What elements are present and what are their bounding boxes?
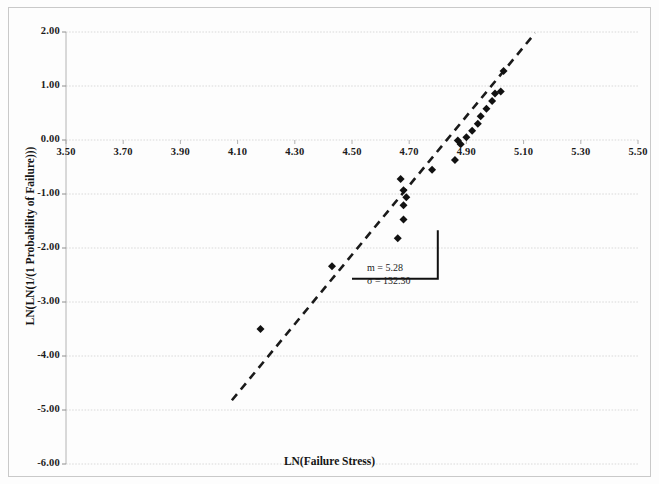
x-tick-label-4.50: 4.50 [327,146,377,157]
x-tick-label-4.90: 4.90 [441,146,491,157]
y-tick-label--5.00: -5.00 [18,403,60,414]
data-point-marker [399,215,407,223]
x-tick-label-4.70: 4.70 [384,146,434,157]
data-point-marker [482,105,490,113]
data-point-marker [256,325,264,333]
data-point-marker [399,186,407,194]
data-point-marker [451,156,459,164]
data-point-marker [328,262,336,270]
data-point-marker [397,175,405,183]
slope-annotation: m = 5.28 [367,261,403,274]
x-tick-label-3.50: 3.50 [41,146,91,157]
plot-canvas [0,0,659,484]
x-tick-label-4.10: 4.10 [213,146,263,157]
data-point-marker [474,120,482,128]
x-tick-label-5.10: 5.10 [499,146,549,157]
y-axis-title: LN(LN(1/(1 Probability of Failure))) [24,76,36,396]
x-axis-title: LN(Failure Stress) [0,455,659,467]
data-point-marker [488,97,496,105]
y-tick-label-2.00: 2.00 [18,25,60,36]
data-point-marker [477,112,485,120]
weibull-probability-plot: 2.001.000.00-1.00-2.00-3.00-4.00-5.00-6.… [0,0,659,484]
data-point-marker [428,166,436,174]
trendline-path [232,33,535,400]
trendline [232,33,535,400]
gridlines-group [66,32,638,464]
data-point-marker [394,234,402,242]
data-point-marker [468,127,476,135]
data-point-marker [399,201,407,209]
x-tick-label-4.30: 4.30 [270,146,320,157]
sigma-annotation: σ = 132.30 [367,274,411,287]
x-tick-label-5.30: 5.30 [556,146,606,157]
data-point-marker [402,193,410,201]
x-tick-label-3.90: 3.90 [155,146,205,157]
data-points-group [256,67,507,333]
x-tick-label-5.50: 5.50 [613,146,659,157]
axis-lines-group [62,32,638,464]
x-tick-label-3.70: 3.70 [98,146,148,157]
